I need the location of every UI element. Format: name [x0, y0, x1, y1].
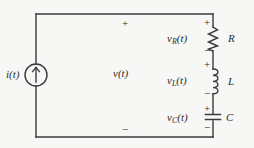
capacitor-voltage-label: vC(t): [167, 112, 188, 125]
inductor-coils: [213, 69, 218, 94]
resistor-plus-sign: +: [201, 17, 213, 28]
capacitor-minus-sign: −: [201, 122, 213, 133]
port-minus-sign: −: [118, 124, 132, 135]
inductor-designator: L: [228, 76, 234, 87]
port-plus-sign: +: [118, 18, 132, 29]
capacitor-plus-sign: +: [201, 103, 213, 114]
resistor-voltage-arg: (t): [177, 32, 187, 44]
current-source-label: i(t): [6, 69, 19, 80]
circuit-diagram: i(t) + v(t) − + vR(t) − R + vL(t) − L + …: [0, 0, 254, 148]
resistor-voltage-label: vR(t): [167, 33, 187, 46]
capacitor-designator: C: [226, 112, 233, 123]
resistor-designator: R: [228, 33, 235, 44]
resistor-minus-sign: −: [201, 45, 213, 56]
inductor-minus-sign: −: [201, 88, 213, 99]
capacitor-voltage-arg: (t): [177, 111, 187, 123]
inductor-plus-sign: +: [201, 59, 213, 70]
inductor-voltage-arg: (t): [176, 74, 186, 86]
inductor-voltage-label: vL(t): [167, 75, 187, 88]
port-voltage-label: v(t): [113, 68, 128, 79]
